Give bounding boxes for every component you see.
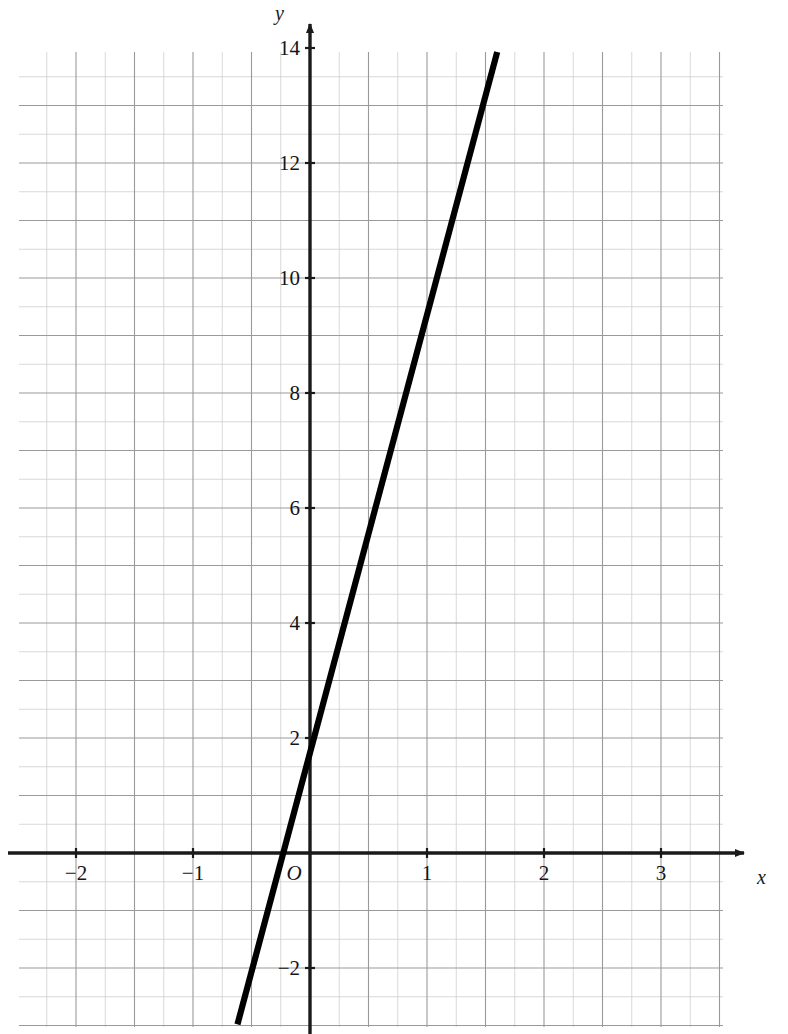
y-tick-label: 2	[290, 726, 301, 751]
grid-major-lines	[19, 52, 723, 1027]
y-tick-label: 4	[290, 611, 301, 636]
y-tick-label: 6	[290, 496, 301, 521]
x-axis-label: x	[757, 866, 766, 889]
x-tick-label: 2	[539, 861, 550, 886]
x-tick-label: 1	[422, 861, 433, 886]
y-axis-label: y	[275, 2, 284, 25]
y-tick-label: −2	[278, 956, 300, 981]
data-series-lines	[237, 52, 497, 1024]
y-tick-label: 14	[279, 36, 300, 61]
x-tick-label: −2	[65, 861, 87, 886]
origin-label: O	[286, 861, 301, 886]
y-tick-label: 10	[279, 266, 300, 291]
coordinate-grid-figure: y x O −2−1123 1412108642−2	[0, 0, 788, 1034]
x-tick-label: −1	[182, 861, 204, 886]
axis-lines	[8, 24, 744, 1034]
grid-minor-lines	[19, 52, 723, 1027]
y-tick-label: 8	[290, 381, 301, 406]
x-tick-label: 3	[656, 861, 667, 886]
plot-canvas	[0, 0, 788, 1034]
y-tick-label: 12	[279, 151, 300, 176]
